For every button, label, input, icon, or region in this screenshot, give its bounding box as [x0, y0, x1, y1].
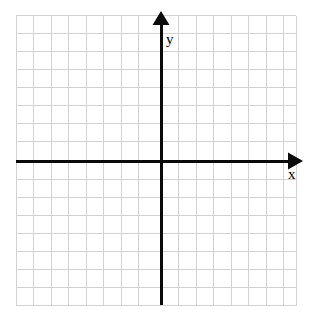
x-axis-label: x	[288, 167, 296, 182]
coordinate-grid-svg	[0, 0, 313, 325]
y-axis	[153, 11, 170, 305]
up-arrowhead-icon	[153, 11, 170, 25]
y-axis-label: y	[166, 32, 174, 47]
coordinate-plane-figure: y x	[0, 0, 313, 325]
